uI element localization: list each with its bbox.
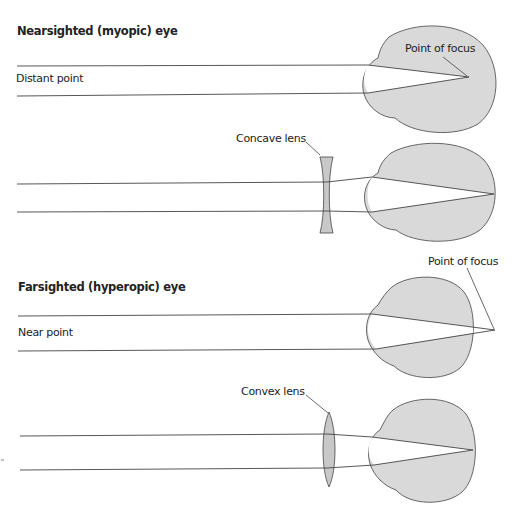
convex-correction-panel bbox=[20, 395, 475, 502]
near-point-label: Near point bbox=[18, 326, 73, 339]
lens-leader-line bbox=[306, 142, 320, 155]
focus-label-hyperopic: Point of focus bbox=[428, 255, 498, 268]
concave-lens bbox=[320, 157, 333, 233]
lens-leader-line bbox=[306, 395, 328, 413]
concave-lens-label: Concave lens bbox=[236, 132, 306, 145]
myopic-title: Nearsighted (myopic) eye bbox=[17, 24, 177, 38]
convex-lens bbox=[323, 412, 335, 487]
convex-lens-label: Convex lens bbox=[241, 385, 305, 398]
concave-correction-panel bbox=[17, 142, 495, 241]
hyperopic-title: Farsighted (hyperopic) eye bbox=[18, 280, 185, 294]
distant-point-label: Distant point bbox=[16, 72, 83, 85]
focus-label-myopic: Point of focus bbox=[405, 42, 475, 55]
